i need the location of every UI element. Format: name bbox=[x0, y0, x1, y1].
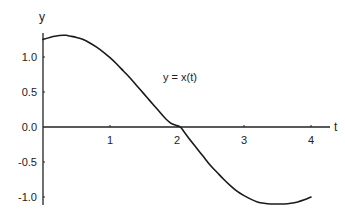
y-tick-label: 1.0 bbox=[22, 51, 37, 63]
x-tick-label: 1 bbox=[107, 134, 113, 146]
curve-annotation: y = x(t) bbox=[163, 71, 197, 83]
y-tick-label: -0.5 bbox=[18, 156, 37, 168]
x-tick-label: 2 bbox=[174, 134, 180, 146]
y-tick-label: -1.0 bbox=[18, 191, 37, 203]
y-tick-label: 0.5 bbox=[22, 86, 37, 98]
x-axis-label: t bbox=[334, 120, 338, 134]
axes bbox=[43, 33, 330, 205]
y-axis-label: y bbox=[39, 10, 45, 24]
y-tick-label: 0.0 bbox=[22, 121, 37, 133]
x-tick-label: 3 bbox=[241, 134, 247, 146]
x-tick-label: 4 bbox=[308, 134, 314, 146]
line-chart: 12341.00.50.0-0.5-1.0 y = x(t) t y bbox=[0, 0, 345, 223]
data-series-line bbox=[43, 35, 311, 204]
